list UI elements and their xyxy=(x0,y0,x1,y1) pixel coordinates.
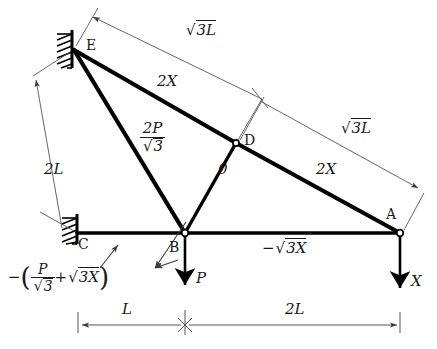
reaction-expression-C: −( P √3 +√3X) xyxy=(8,262,109,293)
member-force-DB-zero: 0 xyxy=(218,160,228,178)
node-label-B: B xyxy=(169,239,179,255)
reaction-plus-sign: + xyxy=(55,268,68,286)
member-force-BA: −√3X xyxy=(262,238,306,257)
dim-line-left xyxy=(36,80,62,228)
ext-line-A-right xyxy=(404,193,424,230)
pin-joint-D xyxy=(233,140,239,146)
wall-support-E xyxy=(57,30,72,68)
node-label-E: E xyxy=(86,37,96,53)
dimension-label-left-2L: 2L xyxy=(44,160,64,178)
dimension-label-right-sqrt3L: √3L xyxy=(340,118,371,137)
dimension-left-2L xyxy=(33,52,74,231)
reaction-minus-sign: − xyxy=(8,268,21,286)
member-force-BA-value: 3X xyxy=(285,238,306,257)
reaction-second-term: 3X xyxy=(78,267,99,286)
leader-node-B xyxy=(155,260,178,268)
ext-line-E-left xyxy=(33,52,70,76)
truss-diagram-figure: E D A B C 2X 2X 2P √3 0 −√3X P X −( P √3… xyxy=(0,0,437,349)
load-label-P: P xyxy=(196,269,206,287)
dim-line-right xyxy=(262,102,418,188)
member-force-ED: 2X xyxy=(157,72,177,90)
pin-joint-B xyxy=(182,230,189,237)
dimension-value-right: 3L xyxy=(351,118,372,137)
node-label-D: D xyxy=(244,132,255,148)
dimension-label-bottom-2L: 2L xyxy=(285,300,305,318)
reaction-denominator: 3 xyxy=(43,278,53,294)
pin-joints xyxy=(182,140,404,236)
dimension-label-bottom-L: L xyxy=(122,300,132,318)
member-force-BA-sign: − xyxy=(262,239,275,257)
member-D-A xyxy=(236,143,400,233)
member-force-EB: 2P √3 xyxy=(140,121,165,155)
member-force-DA: 2X xyxy=(316,160,336,178)
dimension-label-top-sqrt3L: √3L xyxy=(185,20,216,39)
node-label-C: C xyxy=(78,236,89,252)
member-force-EB-denominator: 3 xyxy=(153,138,164,155)
node-label-A: A xyxy=(386,206,396,222)
dimension-value-top: 3L xyxy=(196,20,217,39)
load-label-X: X xyxy=(411,272,422,290)
reaction-numerator: P xyxy=(31,262,55,278)
member-D-B xyxy=(185,143,236,233)
dim-line-top xyxy=(93,17,262,99)
member-force-EB-numerator: 2P xyxy=(140,121,165,138)
pin-joint-A xyxy=(397,230,404,237)
